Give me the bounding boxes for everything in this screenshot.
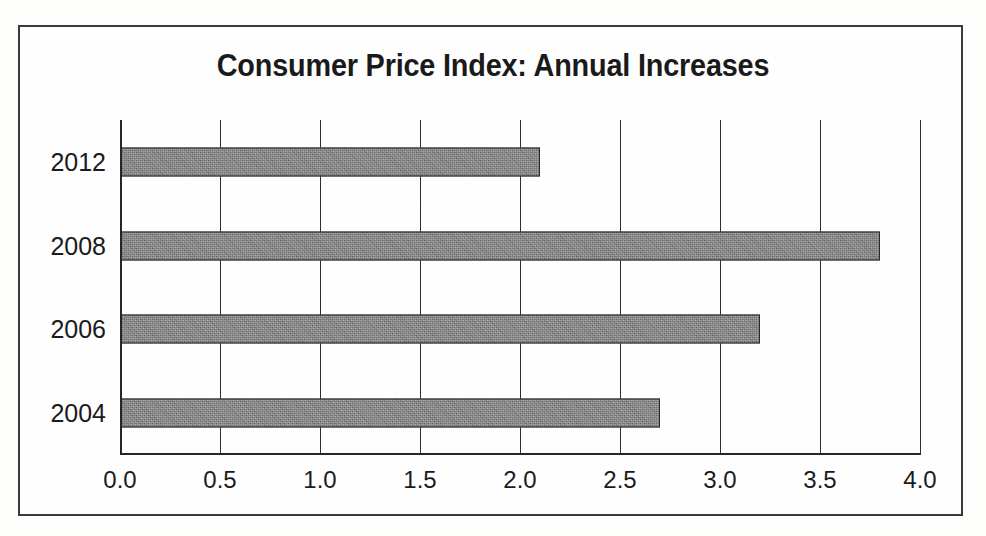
x-axis-line (120, 453, 920, 455)
gridline-4.0 (920, 120, 921, 455)
bar-2004[interactable] (120, 399, 660, 428)
plot-area (120, 120, 920, 455)
bar-2008[interactable] (120, 231, 880, 260)
bar-2006[interactable] (120, 315, 760, 344)
chart-title: Consumer Price Index: Annual Increases (35, 48, 952, 84)
bar-row (120, 204, 920, 288)
bar-row (120, 371, 920, 455)
y-axis-line (120, 120, 122, 455)
bar-row (120, 288, 920, 372)
bar-2012[interactable] (120, 147, 540, 176)
bar-row (120, 120, 920, 204)
